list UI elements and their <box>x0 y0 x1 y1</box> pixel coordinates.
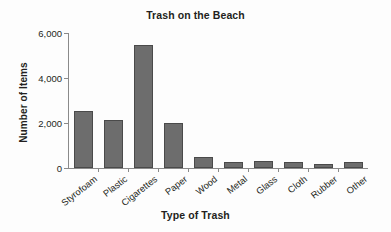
bar <box>224 162 243 168</box>
x-tick-mark <box>98 168 99 172</box>
x-tick-label: Metal <box>225 174 249 196</box>
y-axis-line <box>68 33 69 168</box>
bar-chart-figure: Trash on the Beach Number of Items 02,00… <box>0 0 391 232</box>
y-axis-title: Number of Items <box>18 33 29 173</box>
x-tick-label: Styrofoam <box>60 174 100 208</box>
bar <box>284 162 303 168</box>
plot-area: 02,0004,0006,000 StyrofoamPlasticCigaret… <box>68 33 368 168</box>
bar <box>254 161 273 168</box>
chart-title: Trash on the Beach <box>0 9 391 21</box>
y-tick-label: 6,000 <box>38 28 62 39</box>
x-tick-mark <box>158 168 159 172</box>
bar <box>164 123 183 168</box>
x-tick-label: Paper <box>163 174 189 197</box>
x-tick-mark <box>218 168 219 172</box>
x-axis-title: Type of Trash <box>0 209 391 221</box>
x-tick-mark <box>128 168 129 172</box>
bar <box>314 164 333 169</box>
y-tick-mark <box>64 123 68 124</box>
x-tick-mark <box>308 168 309 172</box>
bar <box>104 120 123 168</box>
x-tick-label: Rubber <box>309 174 339 201</box>
y-tick-label: 0 <box>57 163 62 174</box>
x-tick-label: Cloth <box>286 174 309 195</box>
y-tick-mark <box>64 33 68 34</box>
bar <box>344 162 363 168</box>
bar <box>74 111 93 168</box>
y-tick-label: 4,000 <box>38 73 62 84</box>
x-tick-label: Glass <box>254 174 279 197</box>
x-tick-mark <box>188 168 189 172</box>
y-tick-label: 2,000 <box>38 118 62 129</box>
x-tick-label: Other <box>345 174 369 196</box>
x-tick-label: Wood <box>194 174 219 197</box>
x-tick-mark <box>278 168 279 172</box>
y-tick-mark <box>64 78 68 79</box>
bar <box>134 45 153 168</box>
x-tick-mark <box>248 168 249 172</box>
bar <box>194 157 213 168</box>
y-tick-mark <box>64 168 68 169</box>
x-tick-mark <box>338 168 339 172</box>
